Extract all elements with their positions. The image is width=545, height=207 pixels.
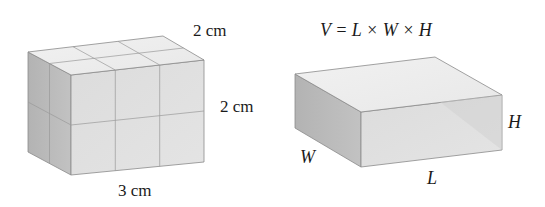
height-label: 2 cm (220, 97, 254, 116)
length-label-l: L (426, 168, 437, 188)
diagram-canvas: 2 cm 2 cm 3 cm V = L × W × H H W L (0, 0, 545, 207)
general-prism: V = L × W × H H W L (295, 20, 522, 188)
height-label-h: H (507, 112, 522, 132)
length-label: 3 cm (118, 181, 152, 200)
depth-label: 2 cm (193, 21, 227, 40)
width-label-w: W (300, 147, 317, 167)
volume-formula: V = L × W × H (320, 20, 433, 40)
prism-front-face (71, 60, 204, 175)
unit-cube-prism: 2 cm 2 cm 3 cm (28, 21, 254, 200)
